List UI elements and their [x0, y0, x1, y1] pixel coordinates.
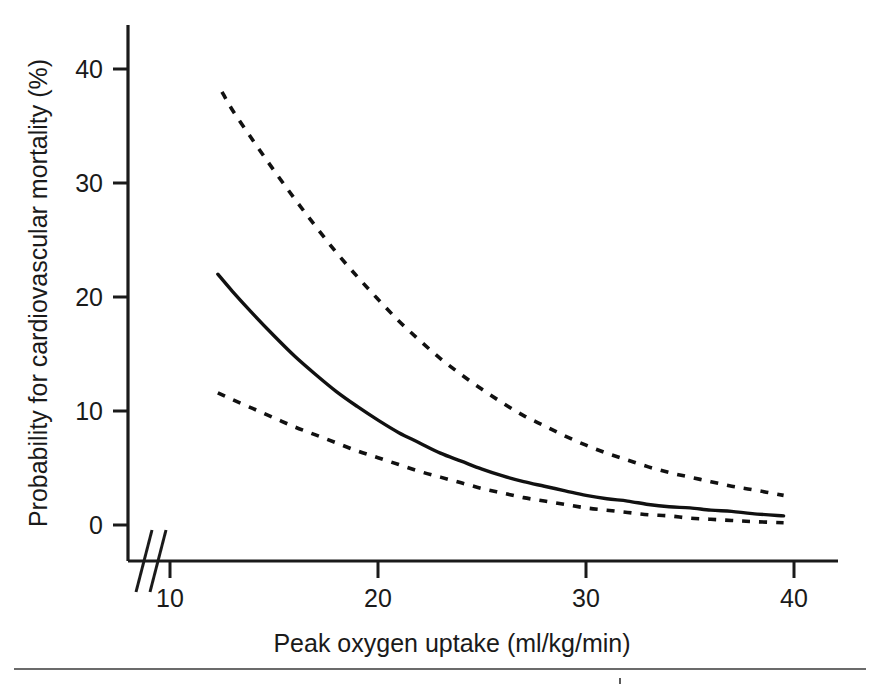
x-tick-label-group: 10 20 30 40	[156, 584, 808, 612]
x-tick-label-30: 30	[572, 584, 600, 612]
y-tick-label-0: 0	[89, 511, 103, 539]
y-tick-group	[113, 69, 128, 525]
x-tick-label-10: 10	[156, 584, 184, 612]
footer-divider	[14, 668, 866, 670]
y-tick-label-group: 0 10 20 30 40	[75, 55, 103, 539]
series-upper-confidence-limit	[222, 92, 784, 496]
footer-clipped-mark	[619, 678, 621, 684]
x-tick-label-20: 20	[364, 584, 392, 612]
y-tick-label-40: 40	[75, 55, 103, 83]
y-tick-label-20: 20	[75, 283, 103, 311]
y-axis-title: Probability for cardiovascular mortality…	[24, 59, 52, 527]
y-tick-label-10: 10	[75, 397, 103, 425]
chart-canvas: 0 10 20 30 40 10 20 30 40	[0, 0, 880, 688]
series-lower-confidence-limit	[218, 393, 784, 523]
figure-root: 0 10 20 30 40 10 20 30 40	[0, 0, 880, 688]
y-tick-label-30: 30	[75, 169, 103, 197]
x-tick-label-40: 40	[780, 584, 808, 612]
x-axis-title: Peak oxygen uptake (ml/kg/min)	[273, 629, 630, 657]
x-tick-group	[170, 561, 794, 578]
